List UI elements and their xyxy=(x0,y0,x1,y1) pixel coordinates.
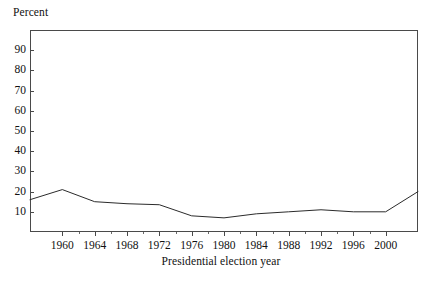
y-axis-tick-label: 30 xyxy=(2,165,26,177)
x-axis-tick-mark xyxy=(224,232,225,236)
x-axis-tick-mark xyxy=(386,232,387,236)
y-axis-tick-label: 50 xyxy=(2,125,26,137)
x-axis-tick-mark xyxy=(321,232,322,236)
x-axis-tick-mark xyxy=(62,232,63,236)
x-axis-minor-tick-mark xyxy=(240,232,241,234)
y-axis-tick-label: 10 xyxy=(2,206,26,218)
y-axis-tick-label: 20 xyxy=(2,186,26,198)
y-axis-tick-label: 90 xyxy=(2,44,26,56)
x-axis-tick-mark xyxy=(289,232,290,236)
x-axis-tick-label: 2000 xyxy=(366,239,406,252)
x-axis-minor-tick-mark xyxy=(176,232,177,234)
y-axis-tick-label: 80 xyxy=(2,64,26,76)
y-axis-tick-label: 60 xyxy=(2,105,26,117)
chart-figure: Percent 908070605040302010 1960196419681… xyxy=(0,0,442,281)
percent-line-series xyxy=(30,190,418,218)
x-axis-minor-tick-mark xyxy=(143,232,144,234)
x-axis-title: Presidential election year xyxy=(0,255,442,268)
x-axis-minor-tick-mark xyxy=(111,232,112,234)
x-axis-minor-tick-mark xyxy=(273,232,274,234)
y-axis-tick-label: 70 xyxy=(2,85,26,97)
x-axis-minor-tick-mark xyxy=(305,232,306,234)
x-axis-tick-mark xyxy=(256,232,257,236)
x-axis-tick-mark xyxy=(192,232,193,236)
x-axis-minor-tick-mark xyxy=(370,232,371,234)
x-axis-tick-mark xyxy=(95,232,96,236)
x-axis-tick-mark xyxy=(127,232,128,236)
y-axis-tick-labels: 908070605040302010 xyxy=(0,0,26,281)
x-axis-tick-mark xyxy=(159,232,160,236)
x-axis-minor-tick-mark xyxy=(337,232,338,234)
x-axis-tick-mark xyxy=(353,232,354,236)
x-axis-minor-tick-mark xyxy=(208,232,209,234)
x-axis-minor-tick-mark xyxy=(79,232,80,234)
y-axis-tick-label: 40 xyxy=(2,145,26,157)
data-series-layer xyxy=(30,30,418,232)
